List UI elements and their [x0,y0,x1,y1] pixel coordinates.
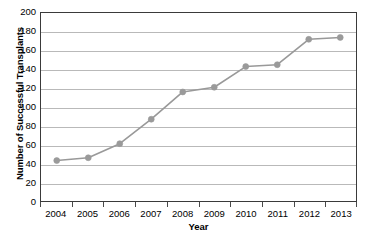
x-axis-tick [40,202,41,207]
x-axis-tick [103,202,104,207]
y-axis-tick-label: 0 [12,197,36,207]
x-axis-tick [167,202,168,207]
data-point-marker [180,89,186,95]
x-axis-tick-label: 2013 [331,208,352,219]
data-point-marker [54,158,60,164]
x-axis-tick-labels: 2004200520062007200820092010201120122013 [40,208,357,221]
data-point-marker [85,155,91,161]
x-axis-tick [294,202,295,207]
y-axis-tick-label: 200 [12,7,36,17]
y-axis-tick-label: 40 [12,159,36,169]
x-axis-tick [72,202,73,207]
y-axis-tick-label: 180 [12,26,36,36]
series-line [57,37,341,160]
data-point-marker [117,141,123,147]
y-axis-tick-labels: 200180160140120100806040200 [12,12,36,202]
x-axis-tick-label: 2010 [235,208,256,219]
x-axis-tick [356,202,357,207]
y-axis-tick-label: 160 [12,45,36,55]
x-axis-tick-label: 2004 [45,208,66,219]
x-axis-tick-label: 2008 [172,208,193,219]
x-axis-tick-label: 2007 [140,208,161,219]
data-point-marker [306,36,312,42]
data-point-marker [243,64,249,70]
data-series-line [41,13,356,201]
x-axis-tick-label: 2005 [77,208,98,219]
data-point-marker [274,62,280,68]
data-point-marker [337,34,343,40]
y-axis-tick-label: 80 [12,121,36,131]
x-axis-tick-label: 2011 [268,208,288,219]
x-axis-tick [230,202,231,207]
y-axis-tick-label: 120 [12,83,36,93]
data-point-marker [148,116,154,122]
y-axis-tick-label: 140 [12,64,36,74]
x-axis-tick [325,202,326,207]
x-axis-title: Year [40,221,357,232]
x-axis-tick [262,202,263,207]
x-axis-ticks [40,202,357,207]
y-axis-tick-label: 60 [12,140,36,150]
y-axis-tick-label: 100 [12,102,36,112]
y-axis-tick-label: 20 [12,178,36,188]
plot-area [40,12,357,202]
x-axis-tick-label: 2012 [299,208,320,219]
line-chart: Number of Successful Transplants 2001801… [0,0,365,235]
x-axis-tick [199,202,200,207]
x-axis-tick-label: 2009 [204,208,225,219]
x-axis-tick-label: 2006 [109,208,130,219]
data-point-marker [211,84,217,90]
x-axis-tick [135,202,136,207]
